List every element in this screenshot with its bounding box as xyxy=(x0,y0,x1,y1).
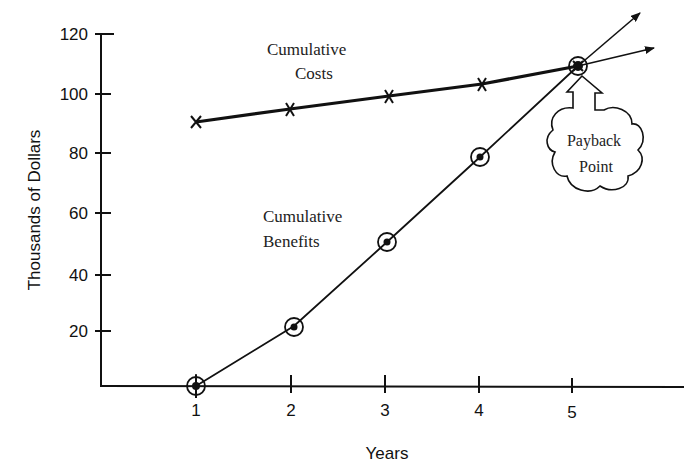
x-tick-label: 2 xyxy=(286,401,295,420)
x-tick-label: 3 xyxy=(380,401,389,420)
benefits-label-line1: Cumulative xyxy=(263,207,342,226)
costs-label-line2: Costs xyxy=(295,64,333,83)
y-axis-tick-labels: 120 100 80 60 40 20 xyxy=(60,25,88,341)
x-tick-label: 4 xyxy=(474,401,483,420)
y-tick-label: 20 xyxy=(69,322,88,341)
y-tick-label: 80 xyxy=(69,144,88,163)
y-tick-label: 60 xyxy=(69,204,88,223)
series-labels: Cumulative Costs Cumulative Benefits xyxy=(263,40,346,251)
y-tick-label: 120 xyxy=(60,25,88,44)
payback-point-callout: Payback Point xyxy=(547,76,643,191)
x-tick-label: 1 xyxy=(191,401,200,420)
payback-label-line1: Payback xyxy=(567,132,621,150)
x-axis-tick-labels: 1 2 3 4 5 xyxy=(191,401,576,422)
circled-dot-marker-icon xyxy=(187,57,587,395)
y-tick-label: 40 xyxy=(69,266,88,285)
x-tick-label: 5 xyxy=(567,403,576,422)
payback-label-line2: Point xyxy=(579,158,613,175)
series-cumulative-benefits xyxy=(187,13,640,398)
y-axis-label: Thousands of Dollars xyxy=(25,130,44,291)
y-tick-label: 100 xyxy=(60,85,88,104)
axes xyxy=(100,34,684,387)
x-axis-label: Years xyxy=(366,444,409,463)
y-axis-ticks xyxy=(95,34,114,331)
costs-label-line1: Cumulative xyxy=(267,40,346,59)
payback-chart: 120 100 80 60 40 20 Thousands of Dollars… xyxy=(0,0,684,475)
benefits-label-line2: Benefits xyxy=(263,232,320,251)
